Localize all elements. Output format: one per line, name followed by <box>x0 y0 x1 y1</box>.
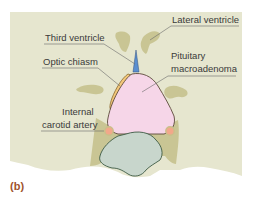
internal-carotid-artery-left <box>105 127 113 135</box>
label-optic-chiasm: Optic chiasm <box>43 56 98 67</box>
internal-carotid-artery-right <box>166 127 174 135</box>
label-pituitary-line1: Pituitary <box>171 50 206 61</box>
panel-label: (b) <box>10 180 24 192</box>
label-lateral-ventricle: Lateral ventricle <box>172 14 239 25</box>
anatomy-diagram: Lateral ventricle Third ventricle Optic … <box>0 0 253 207</box>
label-carotid-line2: carotid artery <box>42 119 98 130</box>
label-pituitary-line2: macroadenoma <box>171 63 238 74</box>
label-carotid-line1: Internal <box>62 106 94 117</box>
label-third-ventricle: Third ventricle <box>45 32 105 43</box>
